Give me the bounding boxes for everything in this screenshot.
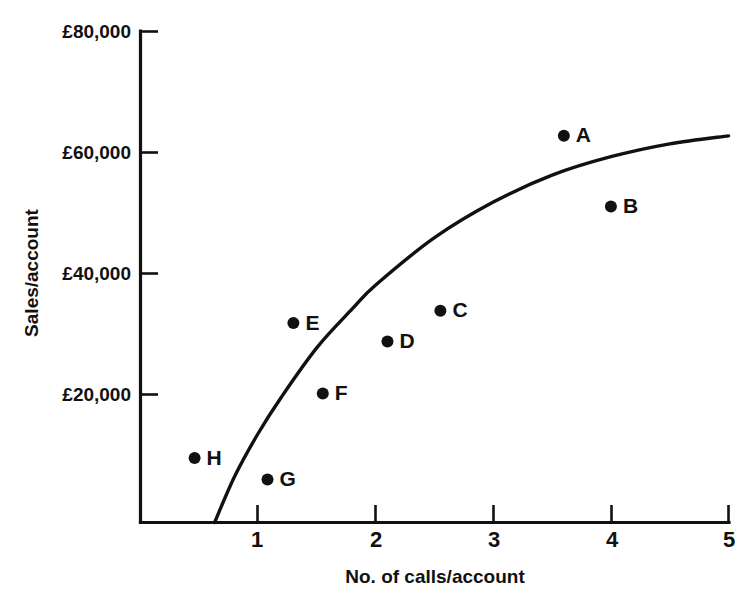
y-axis-title: Sales/account bbox=[21, 208, 42, 336]
data-point-d bbox=[381, 335, 393, 347]
axes-group bbox=[141, 31, 730, 523]
y-ticks-group: £80,000 £60,000 £40,000 £20,000 bbox=[62, 21, 158, 405]
data-point-e bbox=[287, 317, 299, 329]
data-point-label-c: C bbox=[452, 298, 467, 321]
y-tick-label-40000: £40,000 bbox=[62, 263, 131, 284]
y-tick-label-80000: £80,000 bbox=[62, 21, 131, 42]
y-tick-label-60000: £60,000 bbox=[62, 142, 131, 163]
y-tick-label-20000: £20,000 bbox=[62, 384, 131, 405]
data-point-label-d: D bbox=[399, 329, 414, 352]
data-point-f bbox=[317, 388, 329, 400]
data-point-label-a: A bbox=[576, 123, 591, 146]
x-tick-label-3: 3 bbox=[488, 527, 500, 552]
data-point-h bbox=[189, 452, 201, 464]
data-point-g bbox=[262, 474, 274, 486]
response-curve bbox=[215, 136, 729, 523]
x-tick-label-1: 1 bbox=[251, 527, 263, 552]
data-point-label-b: B bbox=[623, 194, 638, 217]
data-point-a bbox=[558, 130, 570, 142]
chart-page: £80,000 £60,000 £40,000 £20,000 1 2 3 4 … bbox=[0, 0, 753, 599]
x-tick-label-5: 5 bbox=[723, 527, 735, 552]
data-point-c bbox=[434, 305, 446, 317]
data-point-label-h: H bbox=[207, 446, 222, 469]
data-point-label-g: G bbox=[280, 467, 296, 490]
scatter-chart: £80,000 £60,000 £40,000 £20,000 1 2 3 4 … bbox=[0, 0, 753, 599]
x-ticks-group: 1 2 3 4 5 bbox=[251, 505, 735, 552]
x-tick-label-4: 4 bbox=[606, 527, 619, 552]
data-point-label-f: F bbox=[335, 381, 348, 404]
x-axis-title: No. of calls/account bbox=[345, 566, 525, 587]
data-point-label-e: E bbox=[305, 311, 319, 334]
x-tick-label-2: 2 bbox=[370, 527, 382, 552]
data-point-b bbox=[605, 200, 617, 212]
